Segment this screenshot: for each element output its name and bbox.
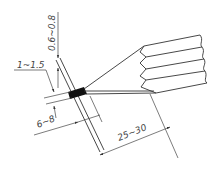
label-thickness: 1~1.5 xyxy=(17,60,45,70)
label-top-gap: 0.6~0.8 xyxy=(47,15,57,51)
dimension-tuft-length: 25~30 xyxy=(100,122,170,155)
guide-lines xyxy=(44,92,178,158)
base-plate xyxy=(56,58,104,152)
label-tuft-length: 25~30 xyxy=(116,122,148,143)
label-insert-depth: 6~8 xyxy=(35,113,57,129)
dimension-thickness: 1~1.5 xyxy=(14,60,56,118)
filament-tuft xyxy=(84,35,207,94)
technical-drawing: 0.6~0.8 1~1.5 6~8 25~30 xyxy=(0,0,217,184)
